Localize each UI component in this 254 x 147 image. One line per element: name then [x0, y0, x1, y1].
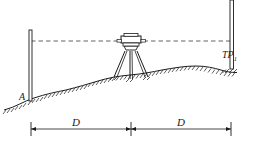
ground-profile — [3, 66, 237, 114]
distance-label-right: D — [176, 116, 185, 128]
level-instrument — [117, 34, 146, 51]
levelling-diagram: A TP1 — [0, 0, 254, 147]
levelling-staff-at-A — [29, 30, 32, 101]
benchmark-label: A — [18, 91, 26, 102]
turning-point-label: TP1 — [222, 49, 237, 62]
dimension-line — [31, 122, 231, 136]
levelling-staff-at-TP1 — [223, 0, 238, 73]
distance-label-left: D — [71, 116, 80, 128]
